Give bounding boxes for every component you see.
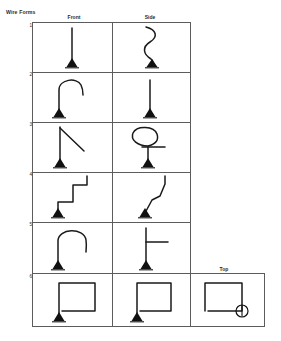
square-rectangle-wire-on-base-icon — [32, 273, 112, 326]
cell-row4-side — [112, 172, 190, 222]
straight-vertical-wire-on-base-icon — [32, 22, 112, 72]
hook-candy-cane-wire-on-base-icon — [32, 72, 112, 122]
cell-row6-side — [112, 273, 190, 326]
diagonal-zigzag-wire-on-base-icon — [112, 172, 190, 222]
grid-line-bottom — [32, 326, 265, 327]
s-curve-wavy-wire-on-base-icon — [112, 22, 190, 72]
row-number-3: 3 — [24, 122, 32, 127]
cell-row2-front — [32, 72, 112, 122]
row-number-6: 6 — [24, 274, 32, 279]
straight-vertical-wire-on-base-icon — [112, 72, 190, 122]
cell-row6-front — [32, 273, 112, 326]
vertical-wire-with-horizontal-arm-on-base-icon — [112, 222, 190, 273]
column-header-side: Side — [136, 14, 164, 20]
cell-row5-side — [112, 222, 190, 273]
wire-forms-worksheet: Wire Forms Front Side Top 1 2 3 4 5 6 — [0, 0, 281, 341]
column-header-top: Top — [210, 266, 238, 272]
square-rectangle-wire-on-base-icon — [112, 273, 190, 326]
right-angle-step-wire-on-base-icon — [32, 172, 112, 222]
cell-row3-side — [112, 122, 190, 172]
cell-row3-front — [32, 122, 112, 172]
grid-line-right-edge-row6 — [264, 273, 265, 326]
inverted-u-arch-wire-on-base-icon — [32, 222, 112, 273]
cell-row1-side — [112, 22, 190, 72]
page-title: Wire Forms — [6, 9, 36, 15]
loop-with-horizontal-arm-wire-on-base-icon — [112, 122, 190, 172]
vertical-wire-with-diagonal-branch-on-base-icon — [32, 122, 112, 172]
row-number-1: 1 — [24, 23, 32, 28]
cell-row5-front — [32, 222, 112, 273]
square-rectangle-wire-with-circle-marker-icon — [190, 273, 264, 326]
cell-row1-front — [32, 22, 112, 72]
row-number-4: 4 — [24, 172, 32, 177]
cell-row2-side — [112, 72, 190, 122]
row-number-5: 5 — [24, 222, 32, 227]
row-number-2: 2 — [24, 72, 32, 77]
column-header-front: Front — [58, 14, 90, 20]
cell-row6-top — [190, 273, 264, 326]
cell-row4-front — [32, 172, 112, 222]
